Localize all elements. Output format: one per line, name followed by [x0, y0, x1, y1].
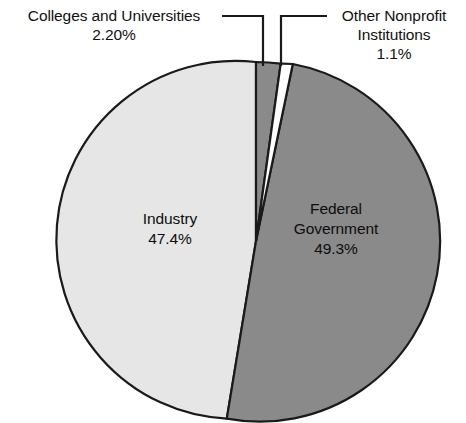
slice-label-other-nonprofit-institutions-line2: Institutions [326, 25, 462, 44]
leader-line-other-nonprofit-institutions [281, 16, 327, 66]
slice-label-colleges-universities-value: 2.20% [6, 25, 222, 44]
slice-label-industry: Industry 47.4% [106, 209, 234, 249]
slice-label-colleges-universities-name: Colleges and Universities [28, 7, 200, 24]
slice-label-other-nonprofit-institutions-line1: Other Nonprofit [342, 7, 446, 24]
slice-label-federal-government-value: 49.3% [266, 239, 406, 259]
leader-line-colleges-universities [222, 16, 263, 66]
slice-label-federal-government-line2: Government [266, 219, 406, 239]
slice-label-other-nonprofit-institutions: Other Nonprofit Institutions 1.1% [326, 6, 462, 63]
slice-label-other-nonprofit-institutions-value: 1.1% [326, 44, 462, 63]
slice-label-federal-government-line1: Federal [310, 200, 362, 217]
slice-label-federal-government: Federal Government 49.3% [266, 199, 406, 259]
slice-label-industry-name: Industry [143, 210, 197, 227]
slice-label-industry-value: 47.4% [106, 229, 234, 249]
slice-label-colleges-universities: Colleges and Universities 2.20% [6, 6, 222, 44]
pie-chart: Colleges and Universities 2.20% Other No… [0, 0, 466, 423]
